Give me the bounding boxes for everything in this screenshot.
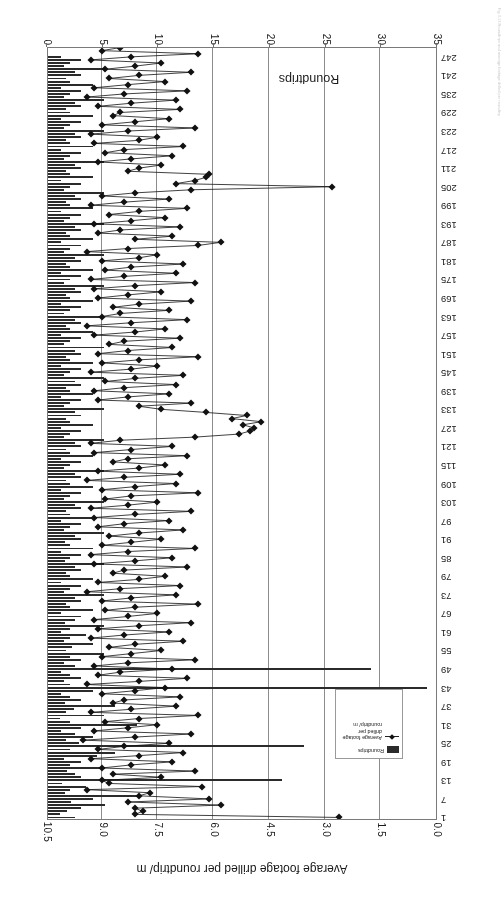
secondary-axis-tick: 0.0 (432, 822, 443, 837)
category-axis-tick: 235 (441, 90, 457, 100)
category-axis-tick: 1 (441, 813, 446, 823)
primary-axis-tickmark (102, 43, 103, 47)
primary-axis-tickmark (325, 43, 326, 47)
secondary-axis-title: Average footage drilled per roundtrip/ m (47, 862, 437, 876)
secondary-axis-tick: 9.0 (98, 822, 109, 837)
secondary-axis-tick-labels: 0.01.53.04.56.07.59.010.5 (47, 822, 437, 856)
primary-axis-tickmark (269, 43, 270, 47)
category-axis-tick: 199 (441, 201, 457, 211)
category-axis-tick: 61 (441, 628, 452, 638)
primary-axis-tickmark (46, 43, 47, 47)
category-axis-tick: 121 (441, 442, 457, 452)
category-axis-tick: 91 (441, 535, 452, 545)
plot-wrapper: 0.01.53.04.56.07.59.010.5 Roundtrips Ave… (47, 47, 437, 820)
secondary-axis-tick: 1.5 (376, 822, 387, 837)
bar-swatch-icon (387, 746, 399, 753)
legend-label-roundtrips: Roundtrips (358, 748, 384, 754)
chart-figure: Average footage drilled per roundtrip/ m… (0, 0, 504, 898)
secondary-axis-tick: 4.5 (265, 822, 276, 837)
category-axis-tick: 115 (441, 461, 456, 471)
category-axis-tick: 139 (441, 387, 457, 397)
primary-axis-tick: 35 (432, 34, 443, 45)
category-axis-tick: 151 (441, 350, 457, 360)
primary-axis-tickmark (157, 43, 158, 47)
primary-axis-tick: 10 (153, 34, 164, 45)
category-axis-tick: 169 (441, 294, 457, 304)
primary-axis-tickmark (213, 43, 214, 47)
category-axis-tick: 175 (441, 275, 457, 285)
category-axis-tick: 85 (441, 554, 452, 564)
primary-axis-tick: 30 (376, 34, 387, 45)
legend-item-roundtrips: Roundtrips (339, 746, 399, 754)
category-axis-tick: 7 (441, 795, 446, 805)
category-axis-tick: 73 (441, 591, 452, 601)
category-axis-tick: 13 (441, 776, 452, 786)
figure-caption: Fig 3.13 Roundtrips and average footage … (486, 8, 502, 138)
primary-axis-tickmark (380, 43, 381, 47)
category-axis-tick: 43 (441, 684, 452, 694)
category-axis-tick: 157 (441, 331, 457, 341)
category-axis-tick: 79 (441, 572, 452, 582)
category-axis-tick: 109 (441, 480, 457, 490)
primary-axis-tick: 15 (209, 34, 220, 45)
chart-legend: Roundtrips Average footage drilled per r… (335, 689, 403, 759)
category-axis-tick: 163 (441, 313, 457, 323)
primary-axis-tick: 25 (321, 34, 332, 45)
category-axis-tick: 19 (441, 758, 452, 768)
secondary-axis-tick: 7.5 (153, 822, 164, 837)
category-axis-tick: 187 (441, 238, 457, 248)
primary-axis-tick: 5 (98, 39, 109, 45)
category-axis-tick: 247 (441, 53, 457, 63)
primary-axis-tick-labels: 05101520253035 (47, 13, 437, 47)
category-axis-tick: 217 (441, 146, 457, 156)
primary-axis-tickmark (436, 43, 437, 47)
primary-axis-title: Roundtrips (114, 72, 504, 86)
primary-axis-tick: 0 (42, 39, 53, 45)
category-axis-tick: 181 (441, 257, 457, 267)
category-axis-tick: 205 (441, 183, 457, 193)
category-axis-tick: 31 (441, 721, 452, 731)
category-axis-tick: 223 (441, 127, 457, 137)
category-axis-tick: 49 (441, 665, 452, 675)
plot-area: Roundtrips Average footage drilled per r… (47, 47, 437, 820)
category-axis-tick: 55 (441, 647, 452, 657)
category-axis-tick: 127 (441, 424, 457, 434)
category-axis-tick: 229 (441, 108, 457, 118)
secondary-axis-tick: 6.0 (209, 822, 220, 837)
category-axis-tick: 67 (441, 609, 452, 619)
legend-label-average-footage: Average footage drilled per roundtrip/ m (339, 722, 382, 741)
line-marker-icon (385, 733, 399, 740)
secondary-axis-tick: 3.0 (321, 822, 332, 837)
category-axis-tick: 37 (441, 702, 452, 712)
secondary-axis-tick: 10.5 (42, 822, 53, 842)
legend-item-average-footage: Average footage drilled per roundtrip/ m (339, 722, 399, 741)
category-axis-tick: 145 (441, 368, 457, 378)
category-axis-tick: 25 (441, 739, 452, 749)
primary-axis-tick: 20 (265, 34, 276, 45)
category-axis-tick-labels: 1713192531374349556167737985919710310911… (441, 47, 477, 820)
category-axis-tick: 211 (441, 164, 456, 174)
category-axis-tick: 97 (441, 517, 452, 527)
category-axis-tick: 103 (441, 498, 457, 508)
category-axis-tick: 193 (441, 220, 457, 230)
category-axis-tick: 133 (441, 405, 457, 415)
